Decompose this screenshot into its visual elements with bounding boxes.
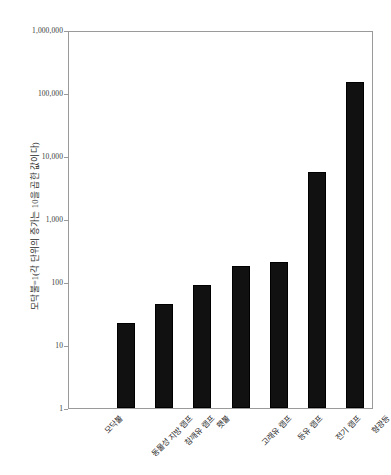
y-tick-label: 10: [55, 342, 63, 350]
bar: [117, 323, 135, 408]
y-tick-label: 100,000: [38, 90, 63, 98]
y-axis-title: 모닥불=1(각 단위의 증가는 10을 곱한 값이다): [28, 126, 40, 326]
y-tick-label: 1,000: [46, 216, 63, 224]
bar: [270, 262, 288, 408]
x-tick-label: 형광등: [368, 413, 391, 436]
bar: [308, 172, 326, 408]
plot-area: [68, 31, 373, 409]
x-tick-label: 등유 램프: [295, 413, 324, 442]
y-tick-label: 100: [51, 279, 63, 287]
bar: [155, 304, 173, 408]
chart-container: 1101001,00010,000100,0001,000,000 모닥불=1(…: [0, 0, 391, 475]
bar: [193, 285, 211, 408]
x-tick-label: 횃불: [214, 413, 232, 431]
x-tick-label: 모닥불: [101, 413, 124, 436]
x-tick-label: 고래유 램프: [259, 413, 293, 447]
bar: [346, 82, 364, 408]
x-axis: 모닥불동물성 지방 램프참깨유 램프횃불고래유 램프등유 램프전기 램프형광등: [0, 409, 391, 475]
bar: [232, 266, 250, 408]
y-tick-label: 10,000: [42, 153, 63, 161]
x-tick-label: 전기 램프: [333, 413, 362, 442]
y-tick-label: 1,000,000: [32, 27, 63, 35]
